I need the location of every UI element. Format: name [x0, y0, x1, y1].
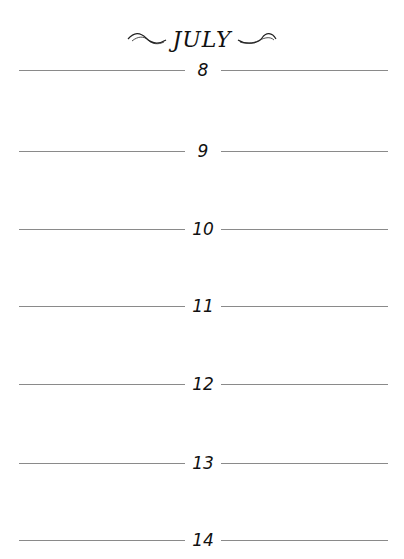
divider-line	[221, 229, 388, 230]
day-row-10: 10	[0, 217, 404, 241]
divider-line	[221, 151, 388, 152]
divider-line	[19, 306, 185, 307]
left-flourish-icon	[126, 30, 168, 48]
divider-line	[19, 540, 185, 541]
divider-line	[221, 306, 388, 307]
month-title: JULY	[172, 27, 231, 52]
divider-line	[19, 384, 185, 385]
day-number: 13	[185, 451, 221, 475]
month-header: JULY	[0, 22, 404, 56]
divider-line	[19, 463, 185, 464]
divider-line	[221, 463, 388, 464]
divider-line	[19, 151, 185, 152]
day-number: 9	[185, 139, 221, 163]
divider-line	[221, 384, 388, 385]
day-number: 10	[185, 217, 221, 241]
day-number: 8	[185, 58, 221, 82]
divider-line	[221, 70, 388, 71]
day-number: 11	[185, 294, 221, 318]
day-number: 12	[185, 372, 221, 396]
day-number: 14	[185, 528, 221, 552]
day-row-9: 9	[0, 139, 404, 163]
day-row-14: 14	[0, 528, 404, 552]
divider-line	[19, 70, 185, 71]
day-row-8: 8	[0, 58, 404, 82]
day-row-13: 13	[0, 451, 404, 475]
divider-line	[19, 229, 185, 230]
divider-line	[221, 540, 388, 541]
day-row-12: 12	[0, 372, 404, 396]
right-flourish-icon	[236, 30, 278, 48]
day-row-11: 11	[0, 294, 404, 318]
